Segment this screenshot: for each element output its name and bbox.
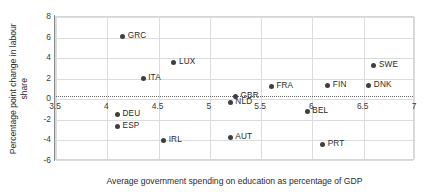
data-point-label: AUT bbox=[235, 132, 252, 141]
data-point bbox=[115, 124, 120, 129]
data-point-label: LUX bbox=[179, 57, 195, 66]
y-axis-title: Percentage point change in labour share bbox=[8, 14, 29, 164]
data-point-label: IRL bbox=[169, 135, 182, 144]
gridline-horizontal bbox=[56, 160, 413, 161]
data-point-label: BEL bbox=[312, 106, 328, 115]
data-point-label: GRC bbox=[128, 31, 147, 40]
data-point bbox=[228, 135, 233, 140]
data-point-label: NLD bbox=[235, 97, 252, 106]
data-point-label: DEU bbox=[123, 109, 141, 118]
y-tick-label: 6 bbox=[46, 32, 51, 42]
data-point bbox=[228, 100, 233, 105]
y-axis-ticks: 86420-2-4-6 bbox=[36, 0, 51, 194]
data-point bbox=[171, 60, 176, 65]
gridline-horizontal bbox=[56, 58, 413, 59]
data-point bbox=[269, 84, 274, 89]
gridline-horizontal bbox=[56, 38, 413, 39]
x-tick-label: 3.5 bbox=[49, 101, 61, 111]
y-tick-label: -6 bbox=[44, 155, 51, 165]
plot-area: GRCLUXSWEITAFINDNKFRAGBRNLDBELDEUESPAUTI… bbox=[55, 16, 414, 160]
data-point bbox=[115, 112, 120, 117]
x-tick-label: 7 bbox=[412, 101, 417, 111]
x-tick-label: 4.5 bbox=[152, 101, 164, 111]
gridline-horizontal bbox=[56, 17, 413, 18]
y-tick-label: -2 bbox=[44, 114, 51, 124]
data-point bbox=[320, 142, 325, 147]
x-tick-label: 5 bbox=[207, 101, 212, 111]
data-point-label: PRT bbox=[328, 139, 345, 148]
x-axis-title: Average government spending on education… bbox=[55, 176, 414, 186]
data-point-label: ITA bbox=[148, 73, 161, 82]
data-point-label: ESP bbox=[123, 121, 140, 130]
y-tick-label: 2 bbox=[46, 73, 51, 83]
gridline-vertical bbox=[414, 17, 415, 159]
x-tick-label: 6.5 bbox=[357, 101, 369, 111]
y-axis-title-holder: Percentage point change in labour share bbox=[0, 0, 34, 194]
data-point bbox=[371, 63, 376, 68]
gridline-horizontal bbox=[56, 120, 413, 121]
y-tick-label: -4 bbox=[44, 134, 51, 144]
data-point bbox=[366, 83, 371, 88]
data-point bbox=[161, 138, 166, 143]
data-point bbox=[325, 83, 330, 88]
y-tick-label: 4 bbox=[46, 52, 51, 62]
gridline-horizontal bbox=[56, 79, 413, 80]
x-tick-label: 5.5 bbox=[254, 101, 266, 111]
data-point-label: DNK bbox=[374, 80, 392, 89]
data-point-label: FRA bbox=[276, 81, 293, 90]
y-tick-label: 8 bbox=[46, 11, 51, 21]
x-tick-label: 6 bbox=[309, 101, 314, 111]
scatter-chart: Percentage point change in labour share … bbox=[0, 0, 444, 194]
data-point bbox=[141, 76, 146, 81]
data-point-label: FIN bbox=[333, 80, 347, 89]
x-tick-label: 4 bbox=[104, 101, 109, 111]
data-point-label: SWE bbox=[379, 60, 398, 69]
